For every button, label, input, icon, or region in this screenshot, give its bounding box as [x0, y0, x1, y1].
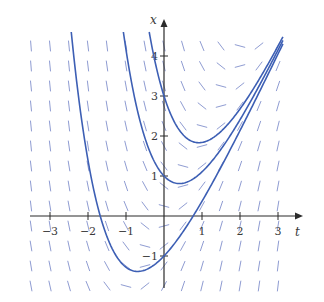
- slope-segment: [220, 261, 222, 271]
- slope-segment: [106, 181, 108, 191]
- slope-segment: [277, 161, 279, 171]
- slope-segment: [219, 201, 222, 210]
- solution-curves: [71, 32, 283, 271]
- slope-segment: [87, 61, 88, 71]
- slope-segment: [30, 281, 32, 291]
- slope-segment: [105, 262, 110, 271]
- slope-segment: [31, 121, 32, 131]
- slope-segment: [276, 61, 280, 70]
- slope-segment: [31, 81, 32, 91]
- slope-segment: [49, 261, 51, 271]
- slope-segment: [142, 202, 148, 210]
- slope-segment: [181, 281, 184, 290]
- slope-segment: [238, 141, 242, 150]
- slope-segment: [68, 241, 70, 251]
- slope-segment: [179, 203, 187, 209]
- slope-segment: [30, 161, 31, 171]
- slope-segment: [258, 221, 260, 231]
- slope-segment: [140, 245, 150, 248]
- slope-segment: [277, 281, 278, 291]
- slope-segment: [125, 101, 127, 111]
- slope-segment: [50, 101, 51, 111]
- slope-segment: [106, 161, 108, 171]
- slope-segment: [277, 141, 279, 151]
- slope-segment: [68, 281, 71, 291]
- slope-segment: [86, 281, 90, 290]
- t-tick-label: 3: [275, 225, 282, 238]
- slope-segment: [68, 121, 69, 131]
- slope-segment: [140, 265, 150, 268]
- slope-segment: [258, 181, 260, 191]
- slope-segment: [199, 82, 205, 90]
- slope-segment: [200, 62, 205, 71]
- slope-segment: [218, 42, 224, 50]
- slope-segment: [276, 81, 279, 90]
- slope-segment: [144, 81, 146, 91]
- slope-segment: [235, 45, 245, 48]
- slope-segment: [31, 41, 32, 51]
- slope-segment: [50, 41, 51, 51]
- t-axis-label: t: [295, 225, 300, 239]
- t-tick-label: −1: [118, 225, 134, 238]
- slope-segment: [277, 261, 278, 271]
- slope-segment: [220, 241, 222, 251]
- ticks: −3−2−1123−11234: [42, 50, 282, 263]
- slope-segment: [141, 283, 149, 289]
- slope-segment: [257, 121, 260, 130]
- slope-segment: [31, 61, 32, 71]
- slope-segment: [178, 165, 188, 168]
- slope-segment: [68, 141, 69, 151]
- slope-segment: [68, 81, 69, 91]
- slope-segment: [239, 181, 242, 191]
- slope-segment: [144, 101, 146, 111]
- slope-segment: [239, 281, 241, 291]
- slope-segment: [143, 182, 148, 191]
- slope-segment: [277, 201, 279, 211]
- slope-segment: [68, 161, 70, 171]
- slope-segment: [179, 143, 187, 149]
- slope-segment: [144, 61, 146, 71]
- slope-segment: [239, 241, 241, 251]
- slope-segment: [181, 81, 185, 90]
- slope-segment: [69, 61, 70, 71]
- slope-segment: [30, 241, 32, 251]
- t-tick-label: 2: [237, 225, 244, 238]
- t-tick-label: −2: [80, 225, 96, 238]
- solution-curve: [123, 32, 283, 184]
- slope-segment: [181, 242, 186, 251]
- slope-segment: [178, 185, 188, 188]
- slope-segment: [49, 141, 50, 151]
- slope-segment: [197, 125, 207, 128]
- slope-segment: [105, 241, 109, 250]
- slope-segment: [105, 221, 108, 230]
- slope-segment: [125, 161, 128, 171]
- slope-segment: [200, 241, 203, 250]
- slope-segment: [106, 61, 107, 71]
- slope-segment: [201, 261, 204, 271]
- x-axis-arrow-icon: [161, 19, 168, 27]
- slope-segment: [182, 41, 185, 51]
- slope-segment: [87, 201, 89, 211]
- slope-segment: [87, 141, 89, 151]
- t-axis-arrow-icon: [295, 213, 303, 220]
- slope-segment: [68, 261, 70, 271]
- slope-segment: [68, 221, 70, 231]
- slope-segment: [106, 41, 107, 51]
- slope-segment: [238, 161, 241, 170]
- slope-segment: [257, 101, 261, 110]
- slope-segment: [106, 121, 108, 131]
- slope-segment: [49, 181, 50, 191]
- slope-segment: [87, 121, 89, 131]
- slope-segment: [49, 201, 51, 211]
- slope-segment: [258, 161, 260, 171]
- solution-curve: [149, 32, 283, 143]
- slope-segment: [277, 181, 279, 191]
- t-tick-label: −3: [42, 225, 58, 238]
- slope-segment: [69, 41, 70, 51]
- slope-segment: [239, 201, 241, 211]
- slope-segment: [258, 201, 260, 211]
- slope-segment: [216, 105, 226, 108]
- x-tick-label: 3: [151, 90, 158, 103]
- slope-segment: [68, 201, 70, 211]
- slope-segment: [49, 121, 50, 131]
